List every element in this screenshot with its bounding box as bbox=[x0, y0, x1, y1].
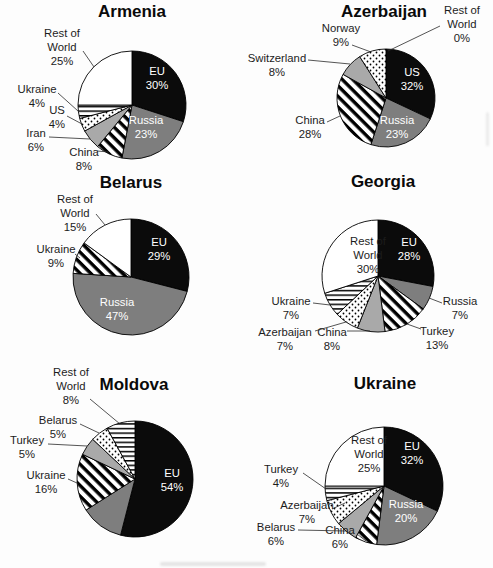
pie-label-moldova-turkey-line2: 5% bbox=[19, 448, 35, 460]
pie-label-armenia-rest-of-world-line3: 25% bbox=[51, 55, 74, 67]
chart-title-azerbaijan: Azerbaijan bbox=[341, 2, 427, 21]
pie-belarus: EU29%Russia47%Ukraine9%Rest ofWorld15% bbox=[37, 193, 189, 335]
pie-label-moldova-ukraine-line2: 16% bbox=[35, 483, 58, 495]
pie-label-georgia-eu-line2: 28% bbox=[398, 250, 421, 262]
chart-title-armenia: Armenia bbox=[98, 2, 167, 21]
pie-label-belarus-rest-of-world-line1: Rest of bbox=[57, 193, 94, 205]
chart-title-georgia: Georgia bbox=[351, 172, 416, 191]
pie-label-moldova-eu-line2: 54% bbox=[161, 481, 184, 493]
pie-label-belarus-ukraine-line2: 9% bbox=[48, 257, 64, 269]
leader-line-azerbaijan-rest-of-world bbox=[388, 26, 440, 51]
pie-label-armenia-russia-line1: Russia bbox=[129, 114, 164, 126]
pie-label-georgia-ukraine-line1: Ukraine bbox=[272, 295, 311, 307]
pie-label-armenia-us-line2: 4% bbox=[49, 118, 65, 130]
leader-line-georgia-ukraine bbox=[313, 303, 330, 305]
pie-label-ukraine-rest-of-world-line2: World bbox=[354, 448, 383, 460]
pie-label-armenia-iran-line1: Iran bbox=[26, 127, 45, 139]
pie-azerbaijan: US32%Russia23%China28%Switzerland8%Norwa… bbox=[248, 4, 481, 147]
leader-line-azerbaijan-china bbox=[327, 116, 340, 122]
pie-label-azerbaijan-switzerland-line2: 8% bbox=[269, 66, 285, 78]
pie-label-ukraine-rest-of-world-line3: 25% bbox=[358, 462, 381, 474]
pie-label-moldova-eu-line1: EU bbox=[164, 467, 180, 479]
pie-label-moldova-rest-of-world-line1: Rest of bbox=[53, 366, 90, 378]
pie-label-azerbaijan-switzerland-line1: Switzerland bbox=[248, 52, 306, 64]
pie-label-ukraine-turkey-line1: Turkey bbox=[264, 463, 298, 475]
leader-line-azerbaijan-norway bbox=[352, 45, 371, 52]
leader-line-azerbaijan-switzerland bbox=[308, 60, 350, 64]
pie-label-belarus-rest-of-world-line2: World bbox=[60, 207, 89, 219]
pie-label-georgia-turkey-line2: 13% bbox=[426, 339, 449, 351]
pie-label-azerbaijan-russia-line1: Russia bbox=[380, 114, 415, 126]
pie-label-georgia-russia-line2: 7% bbox=[452, 309, 468, 321]
pie-georgia: EU28%Russia7%Turkey13%China8%Azerbaijan7… bbox=[258, 220, 478, 352]
leader-line-ukraine-turkey bbox=[303, 473, 326, 489]
pie-label-armenia-us-line1: US bbox=[49, 104, 65, 116]
pie-label-ukraine-russia-line1: Russia bbox=[389, 498, 424, 510]
pie-label-georgia-azerbaijan-line2: 7% bbox=[277, 340, 293, 352]
leader-line-belarus-rest-of-world bbox=[96, 214, 105, 225]
pie-label-armenia-china-line1: China bbox=[69, 146, 99, 158]
leader-line-moldova-rest-of-world bbox=[90, 399, 120, 424]
pie-label-belarus-russia-line2: 47% bbox=[106, 310, 129, 322]
pie-armenia: EU30%Russia23%China8%Iran6%US4%Ukraine4%… bbox=[18, 27, 186, 172]
pie-label-georgia-rest-of-world-line2: World bbox=[353, 249, 382, 261]
pie-label-georgia-rest-of-world-line3: 30% bbox=[357, 263, 380, 275]
scan-artifact-right bbox=[486, 112, 489, 146]
pie-label-moldova-belarus-line1: Belarus bbox=[39, 414, 78, 426]
pie-label-armenia-eu-line2: 30% bbox=[146, 79, 169, 91]
pie-label-azerbaijan-rest-of-world-line2: World bbox=[447, 18, 476, 30]
pie-label-ukraine-eu-line2: 32% bbox=[401, 454, 424, 466]
pie-ukraine: EU32%Russia20%China6%Belarus6%Azerbaijan… bbox=[257, 427, 443, 550]
pie-slice-armenia-rest-of-world bbox=[78, 51, 132, 105]
pie-label-ukraine-azerbaijan-line2: 7% bbox=[299, 513, 315, 525]
pie-label-armenia-china-line2: 8% bbox=[76, 160, 92, 172]
pie-label-belarus-eu-line2: 29% bbox=[148, 250, 171, 262]
leader-line-moldova-turkey bbox=[48, 444, 87, 446]
pie-label-georgia-rest-of-world-line1: Rest of bbox=[350, 235, 387, 247]
pie-label-belarus-ukraine-line1: Ukraine bbox=[37, 243, 76, 255]
pie-label-armenia-russia-line2: 23% bbox=[135, 128, 158, 140]
pie-label-ukraine-russia-line2: 20% bbox=[395, 512, 418, 524]
pie-label-belarus-russia-line1: Russia bbox=[100, 296, 135, 308]
pie-label-azerbaijan-us-line1: US bbox=[404, 66, 420, 78]
pie-label-ukraine-belarus-line2: 6% bbox=[268, 535, 284, 547]
pie-label-azerbaijan-norway-line2: 9% bbox=[333, 36, 349, 48]
pie-label-azerbaijan-russia-line2: 23% bbox=[386, 128, 409, 140]
pie-label-moldova-ukraine-line1: Ukraine bbox=[27, 469, 66, 481]
pie-label-armenia-ukraine-line1: Ukraine bbox=[18, 83, 57, 95]
pie-label-georgia-ukraine-line2: 7% bbox=[283, 309, 299, 321]
chart-title-ukraine: Ukraine bbox=[354, 374, 416, 393]
pie-label-armenia-rest-of-world-line1: Rest of bbox=[44, 27, 81, 39]
pie-label-ukraine-rest-of-world-line1: Rest of bbox=[351, 434, 388, 446]
pie-label-azerbaijan-norway-line1: Norway bbox=[322, 22, 361, 34]
chart-title-belarus: Belarus bbox=[100, 173, 162, 192]
pie-label-armenia-eu-line1: EU bbox=[149, 65, 165, 77]
pie-label-ukraine-china-line1: China bbox=[325, 524, 355, 536]
pie-label-armenia-rest-of-world-line2: World bbox=[47, 41, 76, 53]
leader-line-armenia-iran bbox=[49, 137, 90, 139]
pie-label-ukraine-china-line2: 6% bbox=[332, 538, 348, 550]
leader-line-georgia-turkey bbox=[407, 324, 421, 329]
pie-charts-canvas: Armenia Azerbaijan Belarus Georgia Moldo… bbox=[0, 0, 493, 568]
leader-line-armenia-rest-of-world bbox=[83, 51, 94, 67]
leader-line-moldova-belarus bbox=[80, 424, 99, 433]
pie-label-moldova-rest-of-world-line2: World bbox=[56, 380, 85, 392]
leader-line-georgia-russia bbox=[429, 298, 442, 303]
pie-label-armenia-ukraine-line2: 4% bbox=[29, 97, 45, 109]
pie-label-azerbaijan-rest-of-world-line3: 0% bbox=[454, 32, 470, 44]
pie-label-georgia-azerbaijan-line1: Azerbaijan bbox=[258, 326, 311, 338]
pie-label-georgia-russia-line1: Russia bbox=[443, 295, 478, 307]
pie-label-ukraine-eu-line1: EU bbox=[404, 440, 420, 452]
leader-line-moldova-ukraine bbox=[68, 479, 77, 483]
pie-label-belarus-eu-line1: EU bbox=[151, 236, 167, 248]
scan-artifact-bottom bbox=[160, 562, 266, 566]
pie-label-moldova-rest-of-world-line3: 8% bbox=[63, 394, 79, 406]
pie-label-belarus-rest-of-world-line3: 15% bbox=[64, 221, 87, 233]
pie-label-ukraine-azerbaijan-line1: Azerbaijan bbox=[280, 499, 333, 511]
pie-label-georgia-china-line1: China bbox=[317, 326, 347, 338]
chart-title-moldova: Moldova bbox=[100, 375, 169, 394]
pie-label-azerbaijan-china-line1: China bbox=[295, 114, 325, 126]
pie-label-georgia-china-line2: 8% bbox=[324, 340, 340, 352]
pie-label-georgia-eu-line1: EU bbox=[401, 236, 417, 248]
pie-label-moldova-turkey-line1: Turkey bbox=[10, 434, 44, 446]
